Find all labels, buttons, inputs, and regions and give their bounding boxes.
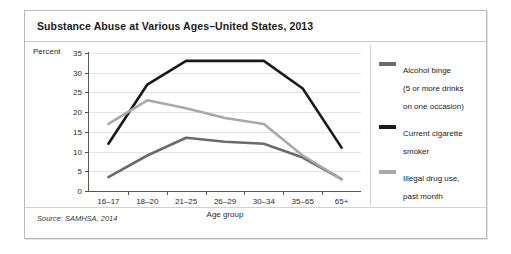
x-tick-label: 16–17 [97, 197, 119, 206]
legend-label: Illegal drug use,past month [403, 174, 459, 201]
x-tick-mark [322, 191, 323, 195]
legend-divider [370, 45, 371, 205]
y-tick-label: 35 [73, 49, 82, 58]
y-tick-mark [85, 191, 89, 192]
y-tick-label: 20 [73, 108, 82, 117]
y-tick-label: 10 [73, 147, 82, 156]
x-tick-mark [206, 191, 207, 195]
legend-swatch [379, 62, 396, 66]
x-tick-label: 35–65 [292, 197, 314, 206]
x-tick-mark [167, 191, 168, 195]
legend-item[interactable]: Illegal drug use,past month [379, 167, 484, 203]
source-divider [25, 207, 486, 208]
series-lines [89, 53, 361, 191]
title-divider [25, 41, 486, 42]
x-tick-label: 18–20 [136, 197, 158, 206]
legend-label: Alcohol binge(5 or more drinkson one occ… [403, 66, 464, 111]
chart-legend: Alcohol binge(5 or more drinkson one occ… [379, 59, 484, 212]
source-note: Source: SAMHSA, 2014 [37, 214, 117, 223]
series-line [108, 61, 341, 148]
legend-swatch [379, 170, 396, 174]
y-tick-label: 30 [73, 68, 82, 77]
y-axis-label: Percent [33, 47, 61, 56]
chart-title: Substance Abuse at Various Ages–United S… [37, 20, 313, 32]
legend-item[interactable]: Current cigarettesmoker [379, 122, 484, 158]
x-tick-label: 65+ [335, 197, 349, 206]
x-axis-title: Age group [207, 210, 244, 219]
y-tick-label: 15 [73, 127, 82, 136]
x-tick-label: 26–29 [214, 197, 236, 206]
chart-panel: Substance Abuse at Various Ages–United S… [24, 10, 487, 239]
x-tick-mark [283, 191, 284, 195]
y-tick-label: 5 [78, 167, 82, 176]
y-tick-label: 25 [73, 88, 82, 97]
plot-area: 05101520253035 16–1718–2021–2526–2930–34… [89, 53, 361, 191]
legend-label: Current cigarettesmoker [403, 129, 463, 156]
x-tick-mark [244, 191, 245, 195]
legend-swatch [379, 125, 396, 129]
y-tick-label: 0 [78, 187, 82, 196]
series-line [108, 100, 341, 179]
x-tick-mark [128, 191, 129, 195]
x-axis-line [88, 191, 361, 192]
legend-item[interactable]: Alcohol binge(5 or more drinkson one occ… [379, 59, 484, 113]
x-tick-label: 21–25 [175, 197, 197, 206]
x-tick-label: 30–34 [253, 197, 275, 206]
